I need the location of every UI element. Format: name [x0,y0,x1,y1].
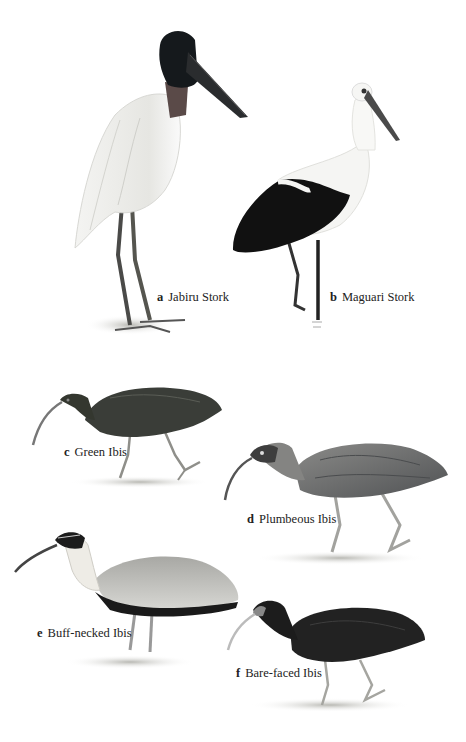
buff-necked-ibis-illustration [15,532,238,669]
bird-plate: aJabiru Stork bMaguari Stork cGreen Ibis… [0,0,466,742]
label-jabiru-stork: aJabiru Stork [157,291,229,304]
label-letter: f [236,666,240,680]
label-name: Buff-necked Ibis [48,626,132,640]
label-name: Jabiru Stork [168,290,229,304]
label-letter: a [157,290,163,304]
label-name: Bare-faced Ibis [245,666,322,680]
label-letter: d [247,512,254,526]
label-plumbeous-ibis: dPlumbeous Ibis [247,513,336,526]
label-letter: c [64,445,70,459]
label-letter: b [330,290,337,304]
label-name: Maguari Stork [342,290,415,304]
bare-faced-ibis-illustration [228,601,425,712]
label-name: Green Ibis [75,445,127,459]
label-bare-faced-ibis: fBare-faced Ibis [236,667,322,680]
label-letter: e [37,626,43,640]
label-name: Plumbeous Ibis [259,512,336,526]
label-buff-necked-ibis: eBuff-necked Ibis [37,627,132,640]
plumbeous-ibis-illustration [225,443,448,565]
label-green-ibis: cGreen Ibis [64,446,127,459]
label-maguari-stork: bMaguari Stork [330,291,415,304]
green-ibis-illustration [33,388,222,488]
